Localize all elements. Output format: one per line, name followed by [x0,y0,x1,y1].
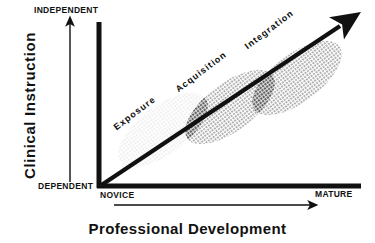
y-axis-title: Clinical Instruction [22,21,37,191]
x-axis-start-label: NOVICE [100,191,134,200]
x-axis-end-label: MATURE [315,190,353,199]
diagram-canvas [0,0,375,243]
y-axis-end-label: INDEPENDENT [34,6,98,15]
figure-container: INDEPENDENT DEPENDENT NOVICE MATURE Clin… [0,0,375,243]
y-axis-start-label: DEPENDENT [38,182,93,191]
x-axis-title: Professional Development [0,221,375,236]
